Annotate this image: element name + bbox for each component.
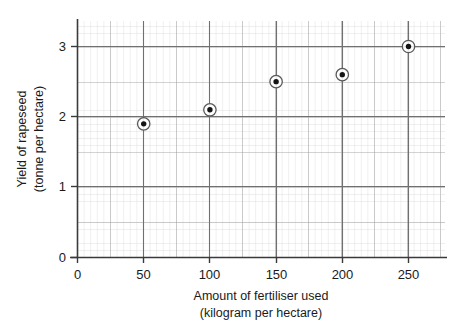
data-point[interactable] bbox=[270, 75, 282, 87]
grid-major bbox=[77, 21, 445, 257]
x-tick-label-200: 200 bbox=[332, 267, 354, 282]
y-tick-label-1: 1 bbox=[59, 179, 66, 194]
x-tick-label-150: 150 bbox=[266, 267, 288, 282]
scatter-plot-figure: 3 2 1 0 0 50 100 150 200 250 Amount of f… bbox=[0, 0, 468, 332]
data-point-dot-3 bbox=[273, 79, 278, 84]
data-point-dot-4 bbox=[340, 72, 345, 77]
data-point[interactable] bbox=[204, 104, 216, 116]
x-axis-title-line1: Amount of fertiliser used bbox=[194, 289, 329, 303]
data-point-dot-2 bbox=[207, 107, 212, 112]
chart-svg: 3 2 1 0 0 50 100 150 200 250 Amount of f… bbox=[0, 0, 468, 332]
y-tick-label-3: 3 bbox=[59, 39, 66, 54]
data-point[interactable] bbox=[402, 40, 414, 52]
data-point-dot-5 bbox=[406, 44, 411, 49]
x-tick-label-0: 0 bbox=[74, 267, 81, 282]
y-tick-label-0: 0 bbox=[59, 250, 66, 265]
x-tick-label-100: 100 bbox=[199, 267, 221, 282]
y-axis-title-line1: Yield of rapeseed bbox=[15, 91, 29, 188]
x-tick-label-50: 50 bbox=[136, 267, 150, 282]
data-point-dot-1 bbox=[141, 121, 146, 126]
x-axis-title-line2: (kilogram per hectare) bbox=[200, 306, 322, 320]
y-tick-label-2: 2 bbox=[59, 109, 66, 124]
data-point[interactable] bbox=[336, 68, 348, 80]
data-point[interactable] bbox=[138, 118, 150, 130]
y-axis-title-line2: (tonne per hectare) bbox=[32, 86, 46, 192]
x-tick-label-250: 250 bbox=[398, 267, 420, 282]
